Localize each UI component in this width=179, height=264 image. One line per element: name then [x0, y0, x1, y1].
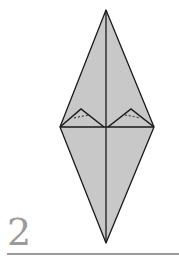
step-number: 2	[7, 212, 31, 252]
divider-line	[7, 253, 179, 255]
kite-shape	[60, 10, 154, 243]
